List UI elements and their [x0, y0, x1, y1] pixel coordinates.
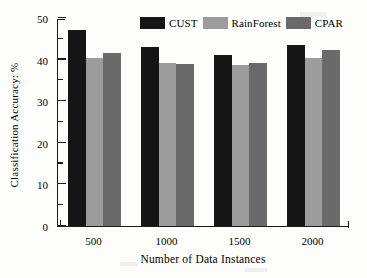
y-tick-major	[58, 17, 66, 18]
bar-rainforest-1000	[159, 63, 177, 226]
y-tick-minor	[58, 38, 63, 39]
y-tick-major	[58, 100, 66, 101]
y-axis-title-text: Classification Accuracy: %	[8, 63, 20, 188]
y-tick-label: 0	[26, 222, 48, 233]
plot-area	[57, 19, 349, 227]
bar-cpar-500	[103, 53, 121, 226]
bar-cpar-1000	[176, 64, 194, 226]
y-tick-label: 10	[26, 180, 48, 191]
bar-cust-2000	[287, 45, 305, 226]
y-tick-minor	[58, 121, 63, 122]
y-axis-title: Classification Accuracy: %	[6, 40, 22, 210]
bar-chart-figure: CUST RainForest CPAR Classification Accu…	[0, 0, 367, 278]
y-tick-label: 20	[26, 138, 48, 149]
x-tick-label: 2000	[289, 235, 337, 247]
x-tick-origin	[60, 220, 61, 226]
y-axis-top-cap	[57, 19, 65, 20]
x-tick-label: 1000	[143, 235, 191, 247]
bar-cpar-1500	[249, 63, 267, 226]
y-tick-major	[58, 142, 66, 143]
y-tick-minor	[58, 162, 63, 163]
bar-rainforest-1500	[232, 65, 250, 226]
y-tick-minor	[58, 204, 63, 205]
x-axis-end-cap	[348, 221, 349, 228]
y-tick-major	[58, 183, 66, 184]
x-tick-label: 1500	[216, 235, 264, 247]
y-tick-label: 50	[26, 14, 48, 25]
bar-rainforest-2000	[305, 58, 323, 226]
y-tick-label: 40	[26, 55, 48, 66]
bar-cpar-2000	[322, 50, 340, 226]
scan-speckle	[245, 268, 267, 272]
bar-cust-1500	[214, 55, 232, 226]
bar-cust-500	[68, 30, 86, 226]
bar-cust-1000	[141, 47, 159, 226]
y-tick-major	[58, 58, 66, 59]
bar-rainforest-500	[86, 58, 104, 226]
x-tick-label: 500	[70, 235, 118, 247]
y-tick-label: 30	[26, 97, 48, 108]
y-tick-minor	[58, 79, 63, 80]
x-axis-title: Number of Data Instances	[57, 253, 349, 265]
